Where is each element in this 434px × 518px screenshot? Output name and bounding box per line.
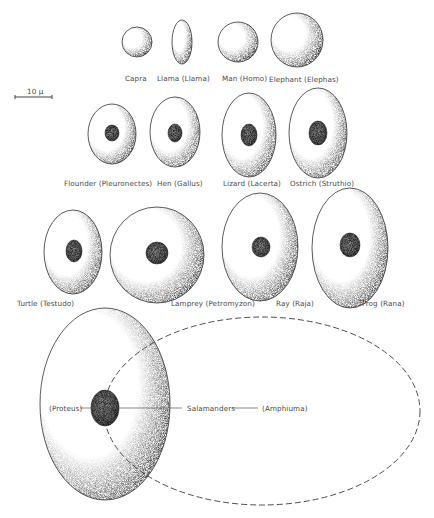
- cell-turtle: [44, 210, 102, 294]
- cell-ostrich: [289, 88, 347, 178]
- cell-elephant: [271, 13, 323, 67]
- cell-man: [218, 22, 258, 62]
- label-lamprey: Lamprey (Petromyzon): [171, 300, 255, 307]
- label-capra: Capra: [125, 75, 147, 82]
- cell-lamprey: [110, 207, 204, 303]
- label-llama: Llama (Llama): [157, 75, 210, 82]
- label-ostrich: Ostrich (Struthio): [290, 180, 354, 187]
- label-hen: Hen (Gallus): [157, 180, 203, 187]
- label-man: Man (Homo): [222, 75, 267, 82]
- cell-ray: [222, 193, 298, 301]
- label-amphiuma: (Amphiuma): [262, 405, 308, 412]
- label-lizard: Lizard (Lacerta): [223, 180, 281, 187]
- cells-layer: [40, 13, 388, 500]
- label-proteus: (Proteus): [49, 405, 82, 412]
- cell-lizard: [222, 93, 276, 177]
- cell-llama: [172, 20, 192, 64]
- label-ray: Ray (Raja): [276, 300, 314, 307]
- label-flounder: Flounder (Pleuronectes): [64, 180, 152, 187]
- figure-canvas: [0, 0, 434, 518]
- cell-capra: [122, 27, 152, 57]
- label-elephant: Elephant (Elephas): [269, 76, 339, 83]
- cell-flounder: [88, 104, 136, 164]
- cell-frog: [312, 188, 388, 308]
- label-salamanders: Salamanders: [187, 405, 235, 412]
- label-frog: Frog (Rana): [362, 300, 405, 307]
- scale-bar-label: 10 μ: [27, 88, 43, 95]
- label-turtle: Turtle (Testudo): [17, 300, 74, 307]
- cell-hen: [150, 97, 200, 167]
